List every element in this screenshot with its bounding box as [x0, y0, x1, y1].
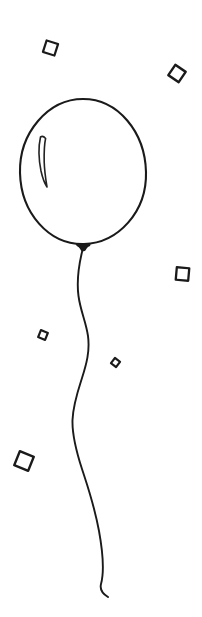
balloon-illustration-canvas: [0, 0, 202, 617]
background: [0, 0, 202, 617]
balloon-illustration-svg: [0, 0, 202, 617]
